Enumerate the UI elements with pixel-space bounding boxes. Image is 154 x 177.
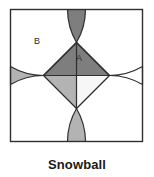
snowball-diagram: A B [0, 0, 154, 177]
region-label-b: B [34, 36, 40, 46]
region-label-a: A [76, 53, 82, 63]
figure-caption: Snowball [0, 157, 154, 173]
snowball-figure: A B Snowball [0, 0, 154, 177]
